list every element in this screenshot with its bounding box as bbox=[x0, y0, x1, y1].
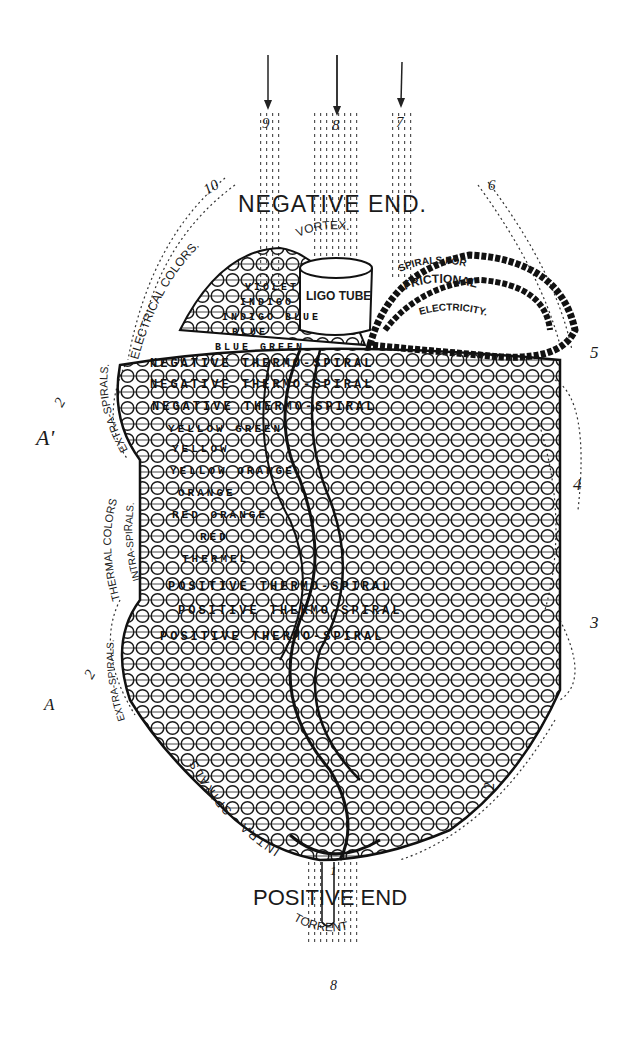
coil-row-label: ORANGE bbox=[178, 487, 236, 499]
coil-row-label: THERMEL bbox=[182, 553, 249, 565]
marker-a-prime: A' bbox=[34, 425, 54, 450]
marker-9: 9 bbox=[262, 115, 270, 131]
coil-row-label: NEGATIVE THERMO-SPIRAL bbox=[150, 378, 374, 392]
coil-row-label: YELLOW ORANGE bbox=[170, 465, 295, 477]
marker-8-top: 8 bbox=[332, 117, 340, 133]
marker-2-right: 2 bbox=[481, 782, 497, 790]
coil-row-label: POSITIVE THERMO-SPIRAL bbox=[168, 580, 392, 594]
marker-8-bottom: 8 bbox=[330, 978, 337, 993]
coil-row-label: RED bbox=[200, 531, 229, 543]
coil-row-label: INDIGO bbox=[240, 297, 294, 308]
coil-row-label: POSITIVE THERMO-SPIRAL bbox=[160, 630, 384, 644]
coil-row-label: RED ORANGE bbox=[172, 509, 268, 521]
coil-row-label: POSITIVE THERMO-SPIRAL bbox=[178, 604, 402, 618]
coil-row-label: BLUE bbox=[232, 327, 268, 338]
marker-2-lower-left: 2 bbox=[81, 667, 99, 682]
tube-label: LIGO TUBE bbox=[306, 289, 371, 303]
negative-end-label: NEGATIVE END. bbox=[238, 191, 427, 217]
electrical-colors-label: ELECTRICAL COLORS. bbox=[127, 238, 201, 361]
coil-row-label: NEGATIVE THERMO-SPIRAL bbox=[150, 357, 374, 371]
electricity-label: ELECTRICITY. bbox=[418, 301, 489, 317]
arrow-7-icon bbox=[401, 62, 402, 102]
marker-1: 1 bbox=[330, 863, 337, 878]
marker-2-upper-left: 2 bbox=[51, 395, 69, 410]
marker-a: A bbox=[43, 695, 55, 714]
thermal-colors-label: THERMAL COLORS bbox=[101, 497, 122, 603]
marker-4: 4 bbox=[573, 475, 582, 494]
coil-row-label: YELLOW GREEN bbox=[168, 423, 283, 435]
marker-5: 5 bbox=[590, 343, 599, 362]
marker-10: 10 bbox=[201, 176, 222, 198]
vortex-tube: LIGO TUBE bbox=[300, 258, 372, 335]
coil-row-label: NEGATIVE THERMO-SPIRAL bbox=[152, 400, 376, 414]
marker-6: 6 bbox=[488, 177, 496, 193]
coil-row-label: YELLOW bbox=[172, 443, 230, 455]
coil-row-label: BLUE GREEN bbox=[215, 342, 305, 353]
marker-3: 3 bbox=[589, 613, 599, 632]
coil-row-label: INDIGO BLUE bbox=[222, 312, 321, 323]
positive-end-label: POSITIVE END bbox=[253, 885, 407, 910]
coil-row-label: VIOLET bbox=[245, 282, 299, 293]
spiral-atom-diagram: LIGO TUBE VIOLET INDIGO INDIGO BLUE BLUE… bbox=[0, 0, 638, 1040]
